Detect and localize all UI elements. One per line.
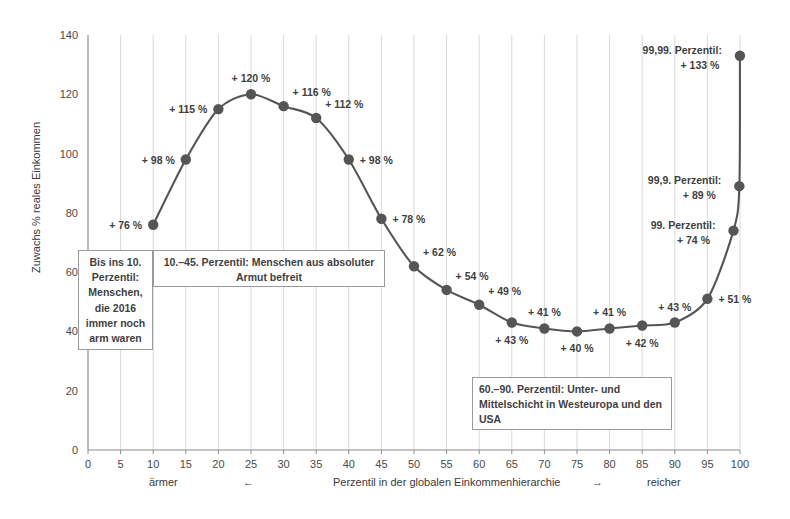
x-tick-label: 100 [731, 458, 749, 470]
data-point-marker[interactable] [637, 320, 647, 330]
data-point-marker[interactable] [572, 326, 582, 336]
data-point-label: + 41 % [528, 306, 562, 318]
data-point-label: + 116 % [293, 86, 332, 98]
data-point-marker[interactable] [376, 214, 386, 224]
x-tick-label: 10 [147, 458, 159, 470]
y-tick-label: 140 [60, 29, 78, 41]
data-point-label: + 112 % [325, 98, 364, 110]
x-tick-label: 40 [343, 458, 355, 470]
y-tick-label: 20 [66, 385, 78, 397]
callout-percentile-label: 99,99. Perzentil: [643, 44, 722, 56]
x-tick-label: 35 [310, 458, 322, 470]
x-tick-label: 0 [85, 458, 91, 470]
x-tick-label: 50 [408, 458, 420, 470]
x-tick-label: 15 [180, 458, 192, 470]
data-point-label: + 78 % [392, 213, 426, 225]
data-point-marker[interactable] [311, 113, 321, 123]
data-point-marker[interactable] [148, 220, 158, 230]
y-axis-title: Zuwachs % reales Einkommen [30, 122, 42, 273]
footer-poorer: ärmer [149, 476, 178, 488]
left-arrow-icon: ← [243, 476, 254, 488]
x-tick-label: 95 [701, 458, 713, 470]
y-tick-label: 40 [66, 325, 78, 337]
data-point-label: + 115 % [169, 103, 208, 115]
data-point-label: + 43 % [658, 301, 692, 313]
callout-percentile-label: 99. Perzentil: [651, 219, 716, 231]
data-point-label: + 76 % [109, 219, 143, 231]
data-point-marker[interactable] [735, 51, 745, 61]
data-point-label: + 42 % [626, 337, 660, 349]
data-point-marker[interactable] [604, 323, 614, 333]
x-tick-label: 60 [473, 458, 485, 470]
data-point-label: + 98 % [142, 154, 176, 166]
annotation-box-poorest: Bis ins 10. Perzentil: Menschen, die 201… [78, 250, 153, 350]
x-tick-label: 85 [636, 458, 648, 470]
x-tick-label: 30 [277, 458, 289, 470]
data-point-label: + 41 % [593, 306, 627, 318]
data-point-marker[interactable] [539, 323, 549, 333]
data-point-label: + 49 % [488, 285, 522, 297]
data-point-marker[interactable] [278, 101, 288, 111]
data-point-label: + 43 % [495, 334, 529, 346]
data-point-label: + 98 % [360, 154, 394, 166]
data-point-label: + 51 % [718, 293, 752, 305]
data-point-marker[interactable] [409, 261, 419, 271]
x-axis-title: Perzentil in der globalen Einkommenhiera… [333, 476, 560, 488]
callout-percentile-label: 99,9. Perzentil: [648, 174, 722, 186]
elephant-curve-chart: 0204060801001201400510152025303540455055… [0, 0, 790, 519]
y-tick-label: 0 [72, 444, 78, 456]
data-point-marker[interactable] [734, 181, 744, 191]
x-tick-label: 65 [506, 458, 518, 470]
x-tick-label: 90 [669, 458, 681, 470]
x-tick-label: 55 [440, 458, 452, 470]
callout-value-label: + 89 % [683, 189, 717, 201]
data-point-marker[interactable] [213, 104, 223, 114]
x-tick-label: 70 [538, 458, 550, 470]
x-tick-label: 75 [571, 458, 583, 470]
y-tick-label: 80 [66, 207, 78, 219]
y-tick-label: 100 [60, 148, 78, 160]
x-tick-label: 45 [375, 458, 387, 470]
data-point-marker[interactable] [474, 300, 484, 310]
data-point-marker[interactable] [246, 89, 256, 99]
data-point-label: + 54 % [456, 270, 490, 282]
x-tick-label: 5 [118, 458, 124, 470]
y-tick-label: 120 [60, 88, 78, 100]
data-point-marker[interactable] [670, 317, 680, 327]
right-arrow-icon: → [592, 476, 603, 488]
data-point-marker[interactable] [507, 317, 517, 327]
data-point-label: + 62 % [423, 246, 457, 258]
data-point-marker[interactable] [344, 154, 354, 164]
annotation-box-absolute-poverty: 10.–45. Perzentil: Menschen aus absolute… [153, 250, 385, 287]
data-point-marker[interactable] [441, 285, 451, 295]
y-tick-label: 60 [66, 266, 78, 278]
footer-richer: reicher [647, 476, 681, 488]
callout-value-label: + 133 % [681, 59, 720, 71]
data-point-label: + 40 % [561, 342, 595, 354]
data-point-marker[interactable] [728, 225, 738, 235]
data-point-label: + 120 % [232, 72, 271, 84]
annotation-box-western-middle-class: 60.–90. Perzentil: Unter- und Mittelschi… [472, 377, 672, 430]
x-tick-label: 25 [245, 458, 257, 470]
data-point-marker[interactable] [702, 294, 712, 304]
x-tick-label: 20 [212, 458, 224, 470]
x-axis-footer: ärmer ← Perzentil in der globalen Einkom… [0, 476, 790, 498]
data-point-marker[interactable] [181, 154, 191, 164]
x-tick-label: 80 [603, 458, 615, 470]
callout-value-label: + 74 % [677, 234, 711, 246]
